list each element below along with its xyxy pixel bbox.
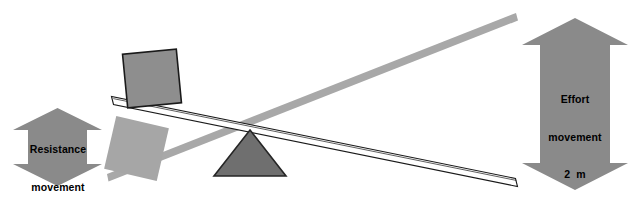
resistance-arrow-shape xyxy=(13,108,102,186)
effort-arrow xyxy=(522,18,628,190)
load-current-group xyxy=(123,49,182,108)
lever-current-bar xyxy=(112,97,518,187)
load-current-box xyxy=(123,49,182,108)
lever-current-group xyxy=(112,97,518,187)
effort-arrow-shape xyxy=(522,18,628,190)
lever-diagram-svg xyxy=(0,0,630,198)
lever-current-bar-ridge xyxy=(113,99,516,181)
load-shadow-group xyxy=(104,116,169,181)
load-shadow-box xyxy=(104,116,169,181)
resistance-arrow xyxy=(13,108,102,186)
diagram-canvas: Resistance movement 1 m Effort movement … xyxy=(0,0,630,198)
